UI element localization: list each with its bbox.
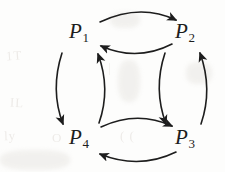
arrow-p2-to-p3 — [159, 53, 166, 124]
arrow-p1-to-p4 — [56, 53, 63, 124]
node-subscript-p1: 1 — [82, 31, 89, 46]
node-subscript-p3: 3 — [188, 137, 195, 152]
node-base-p4: P — [69, 125, 82, 149]
node-base-p3: P — [175, 125, 188, 149]
arrow-p3-to-p4 — [100, 152, 176, 162]
cycle-diagram-figure: 1T IL ly O ( ( | — [0, 0, 225, 172]
node-subscript-p2: 2 — [188, 31, 195, 46]
arrow-p4-to-p3 — [101, 118, 172, 127]
node-label-p2: P2 — [175, 21, 195, 44]
node-label-p1: P1 — [69, 21, 89, 44]
node-label-p3: P3 — [175, 127, 195, 150]
arrow-p3-to-p2 — [200, 53, 207, 124]
arrow-p1-to-p2 — [100, 12, 176, 22]
node-label-p4: P4 — [69, 127, 89, 150]
node-base-p2: P — [175, 19, 188, 43]
arrow-p2-to-p1 — [101, 44, 172, 54]
node-subscript-p4: 4 — [82, 137, 89, 152]
node-base-p1: P — [69, 19, 82, 43]
arrow-p4-to-p1 — [98, 54, 105, 123]
